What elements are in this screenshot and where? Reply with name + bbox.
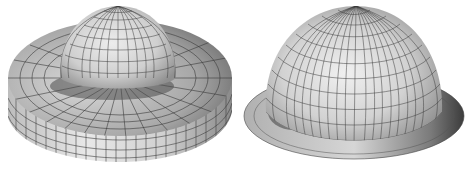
mesh-dome-with-flange: Meshed hemispherical dome with thin flan… (234, 0, 468, 170)
dome (266, 6, 442, 141)
mesh-dome-svg (234, 0, 468, 170)
mesh-disk-with-dome: Meshed disk with hemispherical dome on t… (0, 0, 234, 170)
mesh-disk-svg (0, 0, 234, 170)
